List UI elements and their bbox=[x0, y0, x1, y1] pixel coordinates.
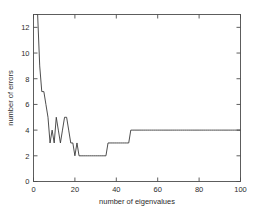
x-tick-label: 20 bbox=[71, 185, 79, 194]
y-tick-label: 0 bbox=[25, 177, 29, 186]
x-tick-label: 60 bbox=[154, 185, 162, 194]
y-tick-label: 12 bbox=[21, 23, 29, 32]
x-tick-label: 40 bbox=[112, 185, 120, 194]
y-tick-label: 4 bbox=[25, 126, 29, 135]
chart-figure: 020406080100024681012number of eigenvalu… bbox=[0, 0, 258, 213]
y-tick-label: 10 bbox=[21, 49, 29, 58]
y-tick-label: 6 bbox=[25, 100, 29, 109]
x-axis-title: number of eigenvalues bbox=[99, 197, 175, 206]
x-tick-label: 100 bbox=[234, 185, 247, 194]
y-tick-label: 8 bbox=[25, 75, 29, 84]
y-axis-title: number of errors bbox=[6, 70, 15, 126]
x-tick-label: 0 bbox=[31, 185, 35, 194]
line-plot: 020406080100024681012number of eigenvalu… bbox=[0, 0, 258, 213]
x-tick-label: 80 bbox=[195, 185, 203, 194]
y-tick-label: 2 bbox=[25, 152, 29, 161]
